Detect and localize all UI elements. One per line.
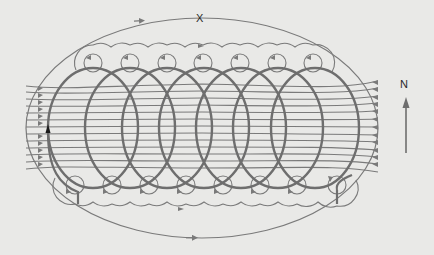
top-circle-arrows xyxy=(86,44,311,60)
solenoid-field-diagram xyxy=(0,0,434,255)
north-label: N xyxy=(400,79,408,90)
current-direction-arrow-icon xyxy=(46,124,51,133)
bottom-scallops xyxy=(53,176,358,207)
north-arrow-icon xyxy=(403,97,410,108)
arrow-top-icon xyxy=(134,21,142,22)
coil-loops xyxy=(48,68,359,188)
point-x-label: X xyxy=(196,13,203,24)
